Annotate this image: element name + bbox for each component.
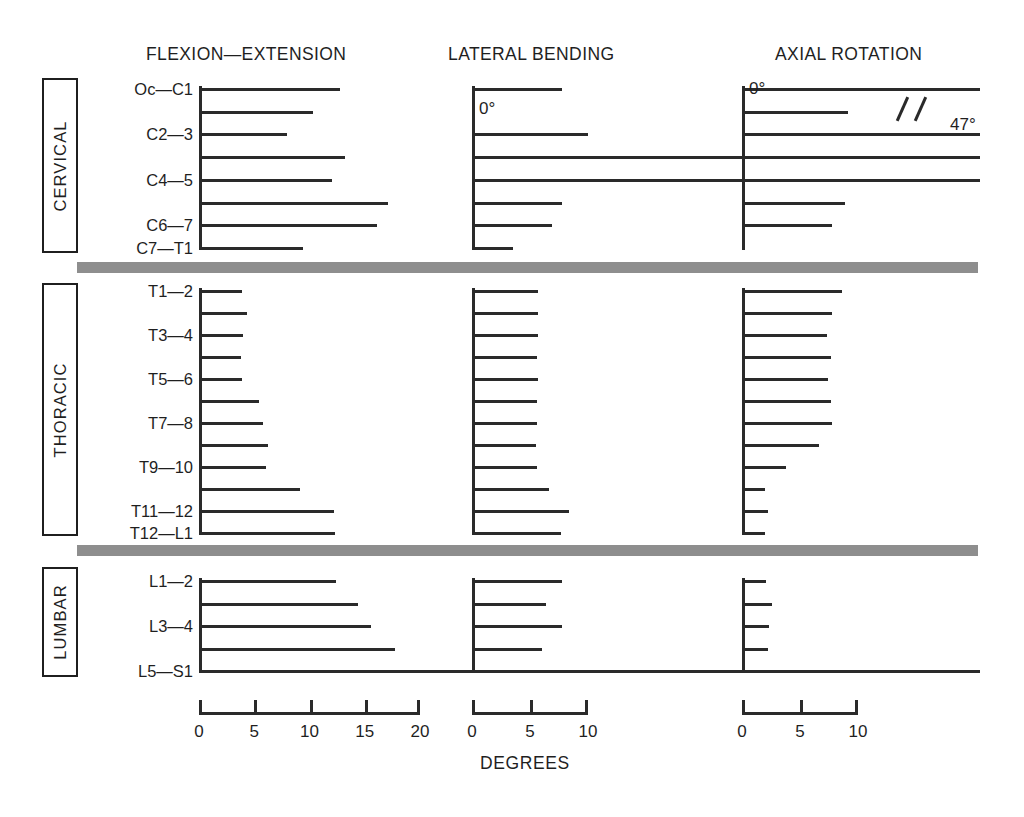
row-label: T3—4 [148, 326, 193, 345]
axis-ruler [742, 712, 858, 715]
row-label: C4—5 [146, 170, 193, 189]
bar [472, 179, 980, 182]
off-scale-value-label: 47° [950, 115, 976, 135]
bar [199, 400, 259, 403]
axis-tick [199, 700, 202, 712]
bar [472, 422, 537, 425]
axis-tick [585, 700, 588, 712]
bar [199, 422, 263, 425]
axis-break-mark-left [896, 97, 909, 122]
axis-tick-label: 5 [525, 722, 534, 742]
bar [742, 356, 831, 359]
row-label: L3—4 [149, 617, 193, 636]
axis-tick [417, 700, 420, 712]
axis-tick [310, 700, 313, 712]
bar [472, 224, 552, 227]
bar [199, 378, 242, 381]
row-label: C7—T1 [136, 238, 193, 257]
bar [742, 532, 765, 535]
bar [199, 111, 313, 114]
axis-ruler [199, 712, 420, 715]
bar [199, 510, 334, 513]
baseline-axial-rotation-thoracic [742, 288, 745, 535]
bar [472, 603, 546, 606]
section-box-thoracic: THORACIC [42, 283, 78, 536]
bar [199, 625, 371, 628]
axis-tick [254, 700, 257, 712]
axis-tick-label: 0 [467, 722, 476, 742]
bar [472, 488, 549, 491]
bar [199, 156, 345, 159]
axis-tick-label: 10 [579, 722, 598, 742]
axis-tick-label: 10 [849, 722, 868, 742]
row-label: T7—8 [148, 414, 193, 433]
bar [472, 378, 538, 381]
bar [472, 670, 506, 673]
row-label: C2—3 [146, 125, 193, 144]
bar [472, 625, 562, 628]
bar [472, 580, 562, 583]
section-label-cervical: CERVICAL [51, 120, 70, 211]
bar [742, 670, 800, 673]
axis-tick-label: 5 [250, 722, 259, 742]
section-box-lumbar: LUMBAR [42, 567, 78, 677]
zero-label-lateral-bending: 0° [479, 99, 495, 119]
row-label: T5—6 [148, 370, 193, 389]
row-label: Oc—C1 [134, 80, 193, 99]
axis-tick [365, 700, 368, 712]
bar [742, 603, 772, 606]
bar [742, 580, 766, 583]
bar [472, 312, 538, 315]
axis-tick-label: 15 [355, 722, 374, 742]
section-label-thoracic: THORACIC [51, 362, 70, 457]
bar [742, 290, 842, 293]
bar [742, 378, 828, 381]
row-label: T9—10 [139, 458, 193, 477]
bar [199, 312, 247, 315]
bar [742, 312, 832, 315]
bar [742, 202, 845, 205]
axis-tick [530, 700, 533, 712]
bar [472, 202, 562, 205]
bar [472, 356, 537, 359]
bar [472, 133, 588, 136]
baseline-lateral-bending-thoracic [472, 288, 475, 535]
bar [199, 466, 266, 469]
bar [472, 400, 537, 403]
row-label: C6—7 [146, 216, 193, 235]
bar [472, 290, 538, 293]
bar [472, 247, 513, 250]
bar [199, 532, 335, 535]
axis-ruler [472, 712, 588, 715]
baseline-flexion-extension-thoracic [199, 288, 202, 535]
bar [742, 510, 768, 513]
bar [199, 488, 300, 491]
bar [472, 444, 536, 447]
bar [472, 334, 538, 337]
panel-title-lateral-bending: LATERAL BENDING [448, 44, 614, 65]
bar [199, 247, 303, 250]
bar [472, 88, 562, 91]
axis-tick-label: 0 [194, 722, 203, 742]
bar [199, 88, 340, 91]
bar [199, 179, 332, 182]
bar [199, 580, 336, 583]
bar [472, 532, 561, 535]
section-box-cervical: CERVICAL [42, 78, 78, 253]
bar [742, 625, 769, 628]
axis-tick [742, 700, 745, 712]
spine-rom-figure: FLEXION—EXTENSION LATERAL BENDING AXIAL … [0, 0, 1024, 817]
row-label: T12—L1 [130, 524, 193, 543]
bar [742, 334, 827, 337]
zero-label-axial-rotation: 0° [749, 79, 765, 99]
row-label: L1—2 [149, 572, 193, 591]
bar [742, 111, 848, 114]
bar [199, 356, 241, 359]
row-label: T11—12 [131, 502, 193, 521]
bar [199, 670, 980, 673]
section-label-lumbar: LUMBAR [51, 584, 70, 659]
bar [742, 179, 860, 182]
axis-tick-label: 5 [795, 722, 804, 742]
axis-tick-label: 10 [300, 722, 319, 742]
bar [742, 422, 832, 425]
